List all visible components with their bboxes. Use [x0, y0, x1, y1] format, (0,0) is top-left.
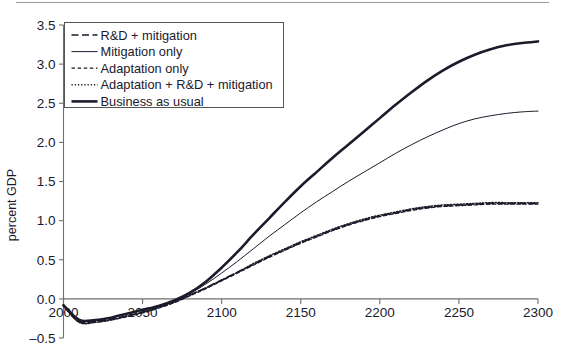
y-axis-tick-label: 2.0	[37, 135, 56, 150]
legend-item-label: Business as usual	[101, 94, 204, 109]
y-axis-tick-label: 3.5	[37, 18, 56, 33]
x-axis-tick-label: 2250	[444, 305, 474, 320]
legend-item-label: Adaptation only	[101, 61, 190, 76]
top-divider-rule	[16, 2, 549, 3]
series-line	[64, 111, 539, 321]
x-axis-tick-label: 2300	[523, 305, 553, 320]
chart-legend: R&D + mitigationMitigation onlyAdaptatio…	[65, 23, 284, 110]
legend-item-label: Adaptation + R&D + mitigation	[101, 77, 273, 92]
y-axis-tick-label: –0.5	[29, 331, 55, 346]
y-axis-tick-label: 3.0	[37, 57, 56, 72]
x-axis-tick-label: 2150	[286, 305, 316, 320]
x-axis-tick-label: 2100	[207, 305, 237, 320]
y-axis-tick-label: 0.5	[37, 253, 56, 268]
y-axis-title: percent GDP	[5, 169, 19, 241]
y-axis-tick-label: 1.5	[37, 174, 56, 189]
y-axis-title-text: percent GDP	[5, 169, 19, 241]
legend-item-label: R&D + mitigation	[101, 28, 197, 43]
y-axis: 3.53.02.52.01.51.00.50.0–0.5	[29, 18, 63, 346]
y-axis-tick-label: 2.5	[37, 96, 56, 111]
legend-item-label: Mitigation only	[101, 44, 183, 59]
line-chart: 3.53.02.52.01.51.00.50.0–0.5 20002050210…	[0, 0, 565, 363]
y-axis-tick-label: 1.0	[37, 213, 56, 228]
x-axis-tick-label: 2200	[365, 305, 395, 320]
chart-figure: 3.53.02.52.01.51.00.50.0–0.5 20002050210…	[0, 0, 565, 363]
